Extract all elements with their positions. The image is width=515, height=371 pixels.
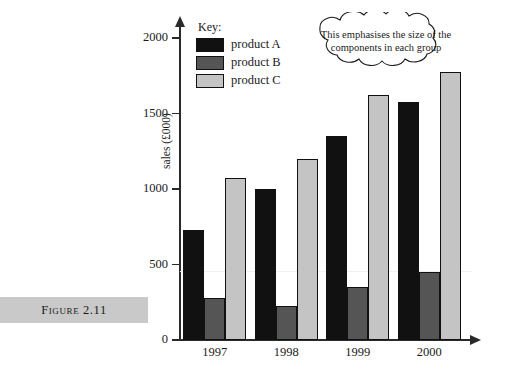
cloud-callout-line-2: components in each group xyxy=(310,41,462,54)
y-axis-arrow-icon xyxy=(175,16,185,27)
bar-1997-product-b xyxy=(204,298,225,340)
bar-1999-product-c xyxy=(368,95,389,340)
bar-group-2000 xyxy=(398,38,461,340)
y-axis-title: sales (£000) xyxy=(160,113,172,169)
legend-label-product-b: product B xyxy=(231,55,281,70)
bar-1998-product-b xyxy=(276,306,297,340)
x-tick-label-2000: 2000 xyxy=(404,345,454,360)
legend-swatch-product-c-icon xyxy=(196,74,224,88)
bar-group-1999 xyxy=(326,38,389,340)
legend-label-product-a: product A xyxy=(231,37,281,52)
bar-2000-product-a xyxy=(398,102,419,340)
bar-2000-product-b xyxy=(419,272,440,340)
legend-swatch-product-a-icon xyxy=(196,38,224,52)
legend-swatch-product-b-icon xyxy=(196,56,224,70)
y-tick-label-1000: 1000 xyxy=(143,181,168,196)
legend-title: Key: xyxy=(198,20,281,35)
x-tick-label-1997: 1997 xyxy=(190,345,240,360)
y-tick-label-1500: 1500 xyxy=(143,106,168,121)
x-tick-label-1999: 1999 xyxy=(333,345,383,360)
bar-1997-product-c xyxy=(225,178,246,340)
cloud-callout-line-1: This emphasises the size of the xyxy=(310,28,462,41)
chart-legend: Key: product A product B product C xyxy=(196,20,281,91)
legend-item-product-a: product A xyxy=(196,37,281,52)
bar-chart: sales (£000) 0500100015002000 1997199819… xyxy=(0,0,515,371)
bar-1999-product-b xyxy=(347,287,368,340)
legend-item-product-c: product C xyxy=(196,73,281,88)
bar-1998-product-a xyxy=(255,189,276,340)
legend-item-product-b: product B xyxy=(196,55,281,70)
bar-1998-product-c xyxy=(297,159,318,340)
cloud-callout-text: This emphasises the size of the componen… xyxy=(310,28,462,54)
legend-label-product-c: product C xyxy=(231,73,281,88)
y-tick-label-500: 500 xyxy=(149,257,168,272)
bar-1999-product-a xyxy=(326,136,347,340)
bar-1997-product-a xyxy=(183,230,204,340)
bar-2000-product-c xyxy=(440,72,461,340)
cloud-callout: This emphasises the size of the componen… xyxy=(298,12,474,74)
y-tick-label-0: 0 xyxy=(162,332,168,347)
y-tick-label-2000: 2000 xyxy=(143,30,168,45)
x-tick-label-1998: 1998 xyxy=(261,345,311,360)
x-axis-arrow-icon xyxy=(470,335,481,345)
